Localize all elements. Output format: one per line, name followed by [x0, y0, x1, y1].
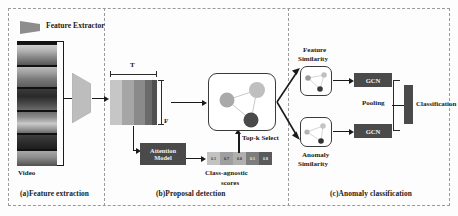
arrow-featuremap-to-attention-vertical	[133, 126, 134, 151]
feature-similarity-label-line2: Similarity	[298, 56, 328, 63]
feature-extractor-legend-icon	[20, 20, 40, 33]
arrow-featuremap-to-graph	[171, 102, 203, 103]
feature-similarity-graph-box	[300, 66, 332, 96]
anomaly-similarity-label-line1: Anomaly	[302, 152, 329, 159]
arrowhead-featuremap-to-graph	[202, 100, 207, 106]
proposal-graph-box	[208, 73, 276, 131]
filmstrip-bracket	[57, 41, 64, 166]
anomaly-similarity-label-line2: Similarity	[298, 161, 328, 168]
gcn-top-box: GCN	[354, 73, 392, 87]
gcn-bottom-box: GCN	[354, 124, 392, 138]
arrowhead-attention-to-scores	[201, 156, 206, 162]
feature-extractor-legend-label: Feature Extractor	[46, 22, 105, 30]
score-cell: 0.1	[207, 152, 220, 165]
feature-extractor-shape	[72, 73, 91, 123]
video-label: Video	[18, 170, 35, 177]
class-agnostic-scores-bar: 0.1 0.7 0.6 0.1 0.8	[207, 152, 272, 165]
featuremap-t-axis-tick-left	[110, 71, 111, 77]
video-frame	[17, 67, 57, 87]
arrow-topk-select-line	[238, 134, 240, 153]
score-cell: 0.1	[246, 152, 259, 165]
score-cell: 0.8	[259, 152, 272, 165]
gcn-bottom-label: GCN	[366, 128, 381, 135]
featuremap-f-label: F	[164, 118, 168, 125]
featuremap-t-axis-line	[110, 74, 157, 75]
classification-label: Classification	[416, 101, 456, 108]
feature-similarity-label-line1: Feature	[303, 47, 326, 54]
anomaly-similarity-graph-box	[300, 117, 332, 147]
video-frame	[17, 89, 57, 110]
video-frame	[17, 45, 57, 65]
arrow-attention-to-scores	[186, 158, 202, 159]
featuremap-f-axis-line	[161, 80, 162, 125]
arrow-pooling-to-classification	[392, 105, 404, 106]
attention-model-box: Attention Model	[140, 143, 186, 165]
video-filmstrip	[17, 41, 57, 166]
topk-select-label: Top-k Select	[242, 135, 279, 142]
panel-c-caption: (c)Anomaly classification	[330, 190, 412, 198]
pooling-label: Pooling	[362, 100, 385, 107]
featuremap-t-label: T	[130, 62, 135, 69]
attention-model-label-line1: Attention	[150, 147, 176, 154]
video-frame	[17, 135, 57, 149]
video-frame	[17, 112, 57, 133]
arrowhead-extractor-to-featuremap	[104, 96, 109, 102]
figure-root: Feature Extractor Video T	[0, 0, 458, 216]
scores-caption-line1: Class-agnostic	[205, 170, 248, 177]
attention-model-label-line2: Model	[154, 154, 171, 161]
classification-bar	[404, 85, 413, 124]
featuremap-f-axis-tick-top	[158, 80, 164, 81]
arrow-anomaly-similarity-to-gcn	[333, 131, 350, 132]
featuremap-t-axis-tick-right	[156, 71, 157, 77]
panel-b-caption: (b)Proposal detection	[156, 190, 226, 198]
gcn-top-label: GCN	[366, 77, 381, 84]
video-frame	[17, 151, 57, 166]
score-cell: 0.6	[233, 152, 246, 165]
scores-caption-line2: scores	[221, 180, 239, 187]
score-cell: 0.7	[220, 152, 233, 165]
feature-map-block	[110, 80, 157, 125]
panel-divider-a-b	[104, 8, 105, 206]
panel-divider-b-c	[288, 8, 289, 206]
panel-a-caption: (a)Feature extraction	[20, 190, 89, 198]
arrow-feature-similarity-to-gcn	[333, 80, 350, 81]
